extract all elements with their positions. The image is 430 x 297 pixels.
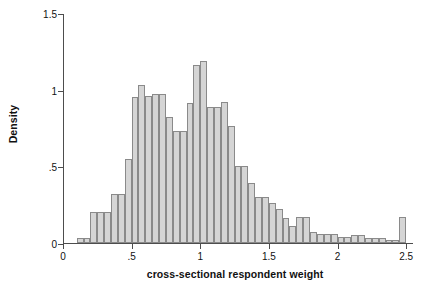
y-axis-label: Density — [2, 0, 24, 248]
histogram-bar — [173, 131, 180, 243]
histogram-bar — [331, 234, 338, 243]
x-tick-label: 2 — [335, 251, 341, 262]
histogram-bar — [77, 238, 84, 243]
histogram-bar — [276, 209, 283, 243]
x-tick-mark — [406, 244, 407, 249]
histogram-bar — [296, 217, 303, 243]
histogram-bar — [324, 234, 331, 243]
histogram-bar — [207, 107, 214, 243]
histogram-figure: Density 0.511.5 0.511.522.5 cross-sectio… — [0, 0, 430, 297]
histogram-bar — [152, 94, 159, 243]
x-axis-line — [63, 243, 413, 244]
histogram-bar — [248, 183, 255, 243]
histogram-bar — [289, 226, 296, 243]
histogram-bar — [159, 94, 166, 243]
histogram-bar — [166, 117, 173, 243]
histogram-bar — [358, 235, 365, 243]
x-tick-mark — [200, 244, 201, 249]
histogram-bar — [386, 240, 393, 243]
histogram-bar — [132, 97, 139, 243]
x-tick-label: 1 — [197, 251, 203, 262]
histogram-bar — [187, 103, 194, 243]
histogram-bar — [269, 203, 276, 243]
histogram-bar — [104, 212, 111, 243]
histogram-bar — [392, 240, 399, 243]
histogram-bar — [255, 197, 262, 243]
histogram-bar — [138, 85, 145, 243]
histogram-bar — [200, 61, 207, 243]
y-tick-label: 1.5 — [31, 9, 57, 20]
histogram-bar — [338, 237, 345, 243]
y-axis-line — [63, 14, 64, 244]
histogram-bar — [283, 218, 290, 243]
histogram-bar — [372, 238, 379, 243]
y-tick-mark — [58, 167, 63, 168]
histogram-bar — [241, 166, 248, 243]
histogram-bar — [97, 212, 104, 243]
histogram-bar — [351, 235, 358, 243]
histogram-bar — [214, 107, 221, 243]
histogram-bar — [145, 96, 152, 243]
histogram-bar — [180, 131, 187, 243]
x-tick-mark — [132, 244, 133, 249]
x-tick-label: .5 — [127, 251, 135, 262]
histogram-bar — [90, 212, 97, 243]
y-tick-label: 1 — [31, 85, 57, 96]
histogram-bar — [193, 65, 200, 243]
x-axis-label: cross-sectional respondent weight — [60, 268, 410, 280]
x-tick-label: 2.5 — [399, 251, 413, 262]
histogram-bar — [303, 217, 310, 243]
histogram-bar — [365, 238, 372, 243]
plot-area: 0.511.5 0.511.522.5 — [63, 14, 413, 244]
histogram-bar — [111, 194, 118, 243]
histogram-bar — [262, 197, 269, 243]
y-tick-label: 0 — [31, 239, 57, 250]
histogram-bar — [221, 102, 228, 243]
x-tick-mark — [63, 244, 64, 249]
y-tick-mark — [58, 91, 63, 92]
histogram-bar — [317, 234, 324, 243]
y-tick-mark — [58, 14, 63, 15]
x-tick-mark — [269, 244, 270, 249]
histogram-bar — [344, 237, 351, 243]
histogram-bar — [310, 232, 317, 243]
y-axis-label-text: Density — [7, 105, 19, 144]
histogram-bar — [379, 238, 386, 243]
histogram-bar — [399, 217, 406, 243]
histogram-bar — [235, 166, 242, 243]
histogram-bar — [228, 126, 235, 243]
x-tick-label: 0 — [60, 251, 66, 262]
y-tick-label: .5 — [31, 162, 57, 173]
x-tick-mark — [338, 244, 339, 249]
histogram-bar — [118, 194, 125, 243]
histogram-bar — [125, 159, 132, 243]
x-tick-label: 1.5 — [262, 251, 276, 262]
histogram-bar — [84, 238, 91, 243]
